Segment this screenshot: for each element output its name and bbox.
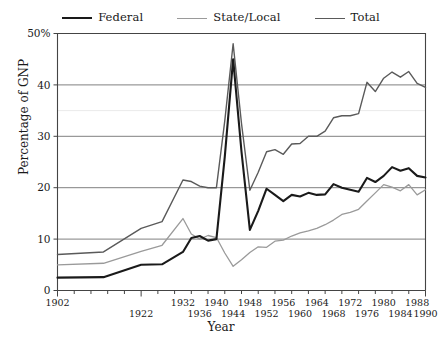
x-axis-label: Year: [0, 320, 442, 334]
plot-frame: [58, 34, 426, 291]
y-tick-label-10: 10: [37, 233, 50, 245]
series-line-state-local: [58, 185, 426, 267]
y-tick-label-40: 40: [37, 79, 50, 91]
axis-frame: [58, 34, 426, 291]
series-line-federal: [58, 59, 426, 277]
x-tick-label-1980: 1980: [372, 297, 396, 308]
x-tick-label-1976: 1976: [355, 308, 379, 319]
y-axis-ticks: [54, 34, 58, 291]
gnp-spending-chart: Federal State/Local Total 19021932194019…: [0, 0, 442, 342]
x-tick-label-1968: 1968: [321, 308, 345, 319]
x-tick-label-1932: 1932: [171, 297, 195, 308]
x-tick-label-1988: 1988: [405, 297, 429, 308]
y-tick-label-0: 0: [44, 284, 51, 296]
x-tick-label-1940: 1940: [204, 297, 228, 308]
x-tick-label-1944: 1944: [221, 308, 245, 319]
x-tick-label-1922: 1922: [129, 308, 153, 319]
x-axis-ticks: [58, 291, 426, 297]
plot-area: 1902193219401948195619641972198019881922…: [0, 0, 442, 342]
x-tick-label-1956: 1956: [271, 297, 295, 308]
x-tick-label-1972: 1972: [338, 297, 362, 308]
x-tick-label-1964: 1964: [305, 297, 329, 308]
y-tick-label-30: 30: [37, 130, 50, 142]
x-tick-label-1902: 1902: [45, 297, 69, 308]
x-tick-label-1984: 1984: [388, 308, 412, 319]
x-tick-label-1936: 1936: [188, 308, 212, 319]
x-axis-tick-labels: 1902193219401948195619641972198019881922…: [45, 297, 437, 319]
x-tick-label-1948: 1948: [238, 297, 262, 308]
x-tick-label-1952: 1952: [254, 308, 278, 319]
data-series-lines: [58, 44, 426, 278]
y-tick-label-20: 20: [37, 181, 50, 193]
x-tick-label-1960: 1960: [288, 308, 312, 319]
y-axis-label: Percentage of GNP: [17, 37, 31, 197]
x-tick-label-1990: 1990: [413, 308, 437, 319]
